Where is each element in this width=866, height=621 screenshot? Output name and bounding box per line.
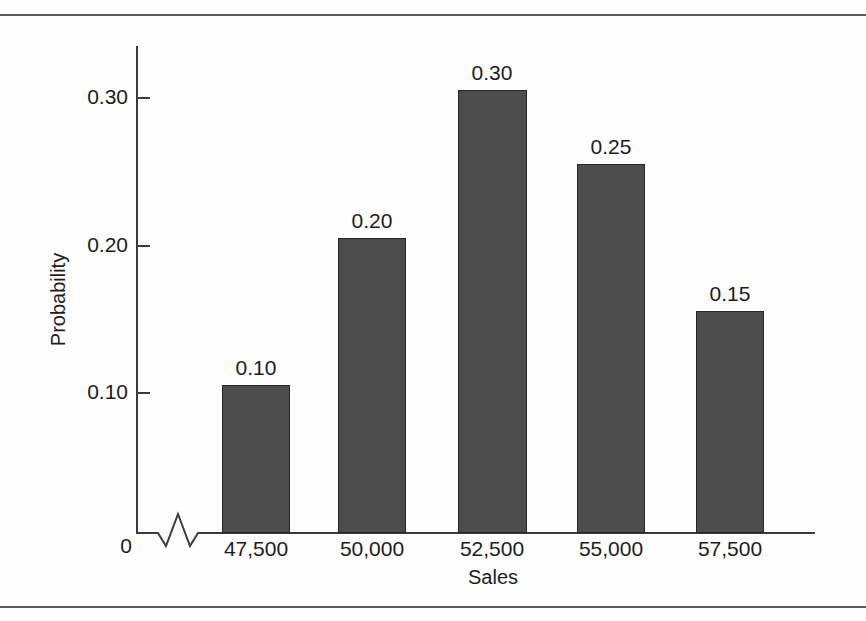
bar-47500[interactable]: [222, 385, 290, 533]
y-tick-mark-020: [138, 245, 150, 247]
x-category-label-57500: 57,500: [670, 538, 790, 559]
y-tick-label-030: 0.30: [48, 86, 128, 107]
bar-value-label-47500: 0.10: [216, 357, 296, 378]
y-axis-origin-label: 0: [104, 534, 132, 558]
x-category-label-50000: 50,000: [312, 538, 432, 559]
x-category-label-52500: 52,500: [432, 538, 552, 559]
bar-55000[interactable]: [577, 164, 645, 533]
y-tick-label-010-wrap: 0.10: [42, 381, 128, 403]
bar-value-label-50000: 0.20: [332, 210, 412, 231]
y-axis-line: [136, 46, 138, 533]
y-tick-mark-010: [138, 392, 150, 394]
figure-container: 0.30 0.20 0.10 0 Probability Sales 0.10 …: [0, 0, 866, 621]
bar-value-label-57500: 0.15: [690, 283, 770, 304]
x-axis-title: Sales: [403, 566, 583, 589]
y-tick-label-010: 0.10: [48, 381, 128, 402]
bar-50000[interactable]: [338, 238, 406, 533]
x-category-label-47500: 47,500: [196, 538, 316, 559]
bar-52500[interactable]: [458, 90, 527, 533]
y-axis-title: Probability: [47, 220, 70, 380]
x-category-label-55000: 55,000: [551, 538, 671, 559]
bar-57500[interactable]: [696, 311, 764, 533]
y-tick-mark-030: [138, 97, 150, 99]
bar-value-label-55000: 0.25: [571, 136, 651, 157]
bar-chart-plot: 0.30 0.20 0.10 0 Probability Sales 0.10 …: [0, 0, 866, 621]
y-tick-label-030-wrap: 0.30: [42, 86, 128, 108]
bar-value-label-52500: 0.30: [452, 62, 532, 83]
